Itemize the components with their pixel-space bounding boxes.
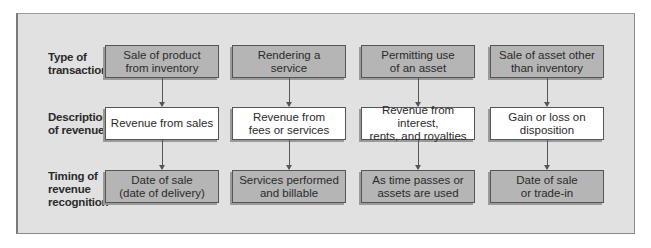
box-text: fees or services [249, 124, 330, 137]
box-text: Date of sale [516, 174, 577, 187]
arrow-down-icon [418, 140, 419, 169]
timing-box-date-of-sale-or-trade-in: Date of saleor trade-in [490, 170, 604, 203]
transaction-box-rendering-service: Rendering aservice [232, 45, 346, 78]
row-label-line: Description [48, 111, 109, 124]
box-text: assets are used [372, 187, 463, 200]
box-text: Rendering a [258, 49, 321, 62]
row-label-line: transaction [48, 64, 108, 77]
timing-box-as-time-passes: As time passes orassets are used [361, 170, 475, 203]
box-text: Sale of product [123, 49, 200, 62]
transaction-box-sale-of-asset: Sale of asset otherthan inventory [490, 45, 604, 78]
box-text: Services performed [239, 174, 339, 187]
box-text: service [258, 62, 321, 75]
row-label-line: of revenue [48, 124, 109, 137]
box-text: Revenue from sales [111, 117, 213, 130]
transaction-box-sale-of-product: Sale of productfrom inventory [105, 45, 219, 78]
row-label-type-of-transaction: Type of transaction [48, 51, 108, 77]
timing-box-date-of-sale: Date of sale(date of delivery) [105, 170, 219, 203]
box-text: (date of delivery) [119, 187, 205, 200]
box-text: from inventory [123, 62, 200, 75]
box-text: Permitting use [381, 49, 455, 62]
row-label-line: recognition [48, 196, 108, 209]
description-box-revenue-from-sales: Revenue from sales [105, 107, 219, 140]
box-text: Date of sale [119, 174, 205, 187]
box-text: and billable [239, 187, 339, 200]
arrow-down-icon [289, 140, 290, 169]
arrow-down-icon [289, 78, 290, 106]
row-label-line: revenue [48, 183, 108, 196]
row-label-line: Type of [48, 51, 108, 64]
row-label-line: Timing of [48, 170, 108, 183]
box-text: Revenue from interest, [362, 104, 474, 130]
box-text: Gain or loss on [508, 111, 585, 124]
row-label-description-of-revenue: Description of revenue [48, 111, 109, 137]
box-text: or trade-in [516, 187, 577, 200]
box-text: Revenue from [249, 111, 330, 124]
box-text: disposition [508, 124, 585, 137]
box-text: of an asset [381, 62, 455, 75]
arrow-down-icon [162, 78, 163, 106]
arrow-down-icon [547, 78, 548, 106]
description-box-revenue-from-interest: Revenue from interest,rents, and royalti… [361, 107, 475, 140]
row-label-timing-of-revenue-recognition: Timing of revenue recognition [48, 170, 108, 209]
transaction-box-permitting-use: Permitting useof an asset [361, 45, 475, 78]
box-text: As time passes or [372, 174, 463, 187]
box-text: Sale of asset other [499, 49, 595, 62]
timing-box-services-performed: Services performedand billable [232, 170, 346, 203]
box-text: than inventory [499, 62, 595, 75]
arrow-down-icon [162, 140, 163, 169]
arrow-down-icon [418, 78, 419, 106]
description-box-revenue-from-fees: Revenue fromfees or services [232, 107, 346, 140]
description-box-gain-or-loss: Gain or loss ondisposition [490, 107, 604, 140]
arrow-down-icon [547, 140, 548, 169]
